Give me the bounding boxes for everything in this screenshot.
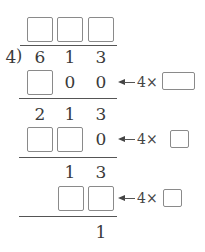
step1-product-ones: 0	[91, 72, 111, 92]
step1-product-tens: 0	[60, 72, 80, 92]
subtraction-line-2	[19, 157, 117, 158]
step1-product-hundreds-blank[interactable]	[27, 70, 53, 95]
arrow-line	[124, 82, 135, 83]
step2-remainder-tens: 1	[60, 162, 80, 182]
step2-multiplier-blank[interactable]	[170, 130, 189, 148]
step3-product-ones-blank[interactable]	[88, 186, 114, 211]
step3-multiplier-blank[interactable]	[163, 189, 182, 207]
step1-remainder-tens: 1	[60, 104, 80, 124]
step1-remainder-hundreds: 2	[30, 104, 50, 124]
step3-multiplier-label: 4×	[137, 190, 158, 206]
subtraction-line-1	[19, 98, 117, 99]
division-bracket: )	[14, 46, 24, 66]
dividend-digit-hundreds: 6	[30, 47, 50, 67]
step2-remainder-ones: 3	[91, 162, 111, 182]
step3-product-tens-blank[interactable]	[58, 186, 84, 211]
step1-remainder-ones: 3	[91, 104, 111, 124]
final-remainder: 1	[91, 222, 111, 242]
step2-product-ones: 0	[91, 129, 111, 149]
division-bar	[20, 45, 117, 46]
step2-multiplier-label: 4×	[137, 131, 158, 147]
quotient-hundreds-blank[interactable]	[27, 17, 53, 42]
quotient-tens-blank[interactable]	[57, 17, 83, 42]
subtraction-line-3	[19, 216, 117, 217]
step1-multiplier-label: 4×	[137, 74, 158, 90]
step1-multiplier-blank[interactable]	[162, 72, 195, 90]
arrow-line	[124, 198, 135, 199]
dividend-digit-tens: 1	[60, 47, 80, 67]
quotient-ones-blank[interactable]	[88, 17, 114, 42]
step2-product-hundreds-blank[interactable]	[27, 127, 53, 152]
step2-product-tens-blank[interactable]	[57, 127, 83, 152]
arrow-line	[124, 139, 135, 140]
dividend-digit-ones: 3	[91, 47, 111, 67]
